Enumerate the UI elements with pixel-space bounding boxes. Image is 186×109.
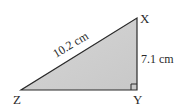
side-label-xy: 7.1 cm [141, 52, 174, 66]
vertex-label-z: Z [13, 92, 21, 107]
vertex-label-x: X [140, 11, 150, 26]
triangle-xyz [21, 18, 137, 90]
triangle-diagram: X Y Z 10.2 cm 7.1 cm [0, 0, 186, 109]
vertex-label-y: Y [133, 92, 143, 107]
